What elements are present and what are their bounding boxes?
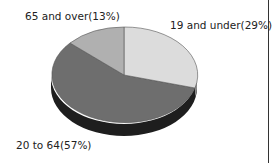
- divider-line: [268, 0, 269, 163]
- label-19-and-under: 19 and under(29%): [170, 19, 272, 31]
- label-65-and-over: 65 and over(13%): [25, 10, 120, 22]
- label-20-to-64: 20 to 64(57%): [16, 139, 91, 151]
